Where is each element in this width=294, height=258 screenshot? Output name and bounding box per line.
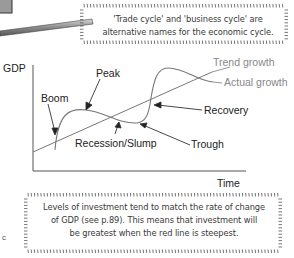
recession-label: Recession/Slump <box>75 137 157 149</box>
x-axis-label: Time <box>217 177 240 189</box>
trough-label: Trough <box>191 138 224 150</box>
pointer-bar-icon <box>0 19 93 36</box>
recovery-label: Recovery <box>204 104 248 116</box>
trend-growth-label: Trend growth <box>213 56 274 68</box>
chart <box>33 65 246 171</box>
note-line: 'Trade cycle' and 'business cycle' are <box>92 13 284 26</box>
cropped-text: c <box>2 233 6 242</box>
recovery-arrow <box>158 105 202 110</box>
note-line: be greatest when the red line is steepes… <box>30 227 278 240</box>
trade-cycle-note: 'Trade cycle' and 'business cycle' are a… <box>92 13 284 39</box>
box-corner-icon <box>0 0 12 13</box>
peak-arrow <box>88 79 100 106</box>
y-axis-label: GDP <box>3 62 26 74</box>
note-line: alternative names for the economic cycle… <box>92 26 284 39</box>
peak-label: Peak <box>96 67 120 79</box>
note-line: Levels of investment tend to match the r… <box>30 201 278 214</box>
boom-label: Boom <box>41 92 68 104</box>
actual-label-leader <box>213 82 222 83</box>
investment-note: Levels of investment tend to match the r… <box>30 201 278 240</box>
actual-growth-label: Actual growth <box>224 76 288 88</box>
note-line: of GDP (see p.89). This means that inves… <box>30 214 278 227</box>
